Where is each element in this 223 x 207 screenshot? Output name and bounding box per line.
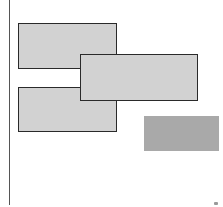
corner-mark: [214, 202, 218, 205]
gray-filled-block: [144, 116, 219, 151]
box-middle-right: [80, 54, 198, 101]
vertical-axis-line: [9, 0, 10, 205]
